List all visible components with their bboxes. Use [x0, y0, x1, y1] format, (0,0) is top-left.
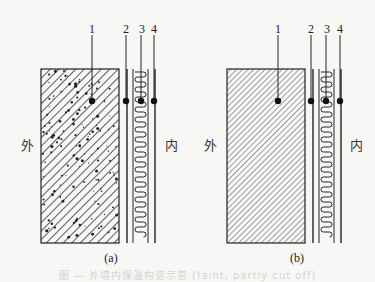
aggregate-speck	[96, 88, 98, 90]
aggregate-speck	[63, 70, 65, 72]
aggregate-speck	[76, 157, 79, 160]
aggregate-speck	[59, 120, 62, 123]
aggregate-speck	[81, 124, 82, 125]
aggregate-speck	[74, 82, 77, 85]
aggregate-speck	[84, 153, 85, 154]
aggregate-speck	[108, 150, 110, 152]
aggregate-speck	[76, 112, 79, 115]
aggregate-speck	[45, 229, 48, 232]
panel-b-dot-3	[323, 98, 329, 104]
aggregate-speck	[52, 134, 55, 137]
panel-a-dot-1	[89, 98, 95, 104]
aggregate-speck	[74, 134, 76, 136]
aggregate-speck	[54, 226, 56, 228]
aggregate-speck	[79, 166, 80, 167]
aggregate-speck	[44, 161, 46, 163]
panel-b-outside-label: 外	[204, 138, 217, 153]
aggregate-speck	[116, 182, 117, 183]
panel-b-sublabel: (b)	[290, 251, 304, 265]
aggregate-speck	[48, 219, 50, 221]
aggregate-speck	[49, 122, 51, 124]
aggregate-speck	[88, 136, 89, 137]
panel-a-callout-4: 4	[151, 22, 157, 36]
aggregate-speck	[79, 79, 81, 81]
aggregate-speck	[91, 130, 94, 133]
aggregate-speck	[49, 106, 50, 107]
aggregate-speck	[96, 115, 99, 118]
aggregate-speck	[75, 220, 78, 223]
aggregate-speck	[68, 83, 71, 86]
aggregate-speck	[60, 91, 62, 93]
aggregate-speck	[63, 130, 65, 132]
aggregate-speck	[72, 123, 75, 126]
aggregate-speck	[60, 185, 61, 186]
aggregate-speck	[73, 222, 75, 224]
aggregate-speck	[109, 88, 111, 90]
aggregate-speck	[46, 133, 48, 135]
aggregate-speck	[48, 98, 50, 100]
aggregate-speck	[62, 200, 65, 203]
aggregate-speck	[104, 214, 105, 215]
panel-a-sublabel: (a)	[104, 251, 117, 265]
aggregate-speck	[113, 172, 114, 173]
aggregate-speck	[60, 79, 62, 81]
aggregate-speck	[76, 145, 78, 147]
panel-b-callout-3: 3	[324, 22, 330, 36]
aggregate-speck	[76, 97, 78, 99]
aggregate-speck	[65, 175, 66, 176]
aggregate-speck	[73, 154, 76, 157]
panel-b-wall-layer	[227, 69, 305, 243]
aggregate-speck	[51, 223, 53, 225]
aggregate-speck	[81, 159, 84, 162]
aggregate-speck	[43, 176, 44, 177]
aggregate-speck	[50, 145, 53, 148]
panel-b-callout-2: 2	[308, 22, 314, 36]
aggregate-speck	[78, 109, 80, 111]
panel-a-wall-layer	[41, 69, 119, 243]
aggregate-speck	[98, 81, 100, 83]
aggregate-speck	[113, 125, 115, 127]
aggregate-speck	[113, 227, 116, 230]
aggregate-speck	[79, 142, 81, 144]
aggregate-speck	[71, 101, 73, 103]
aggregate-speck	[53, 99, 54, 100]
aggregate-speck	[44, 125, 46, 127]
aggregate-speck	[99, 130, 101, 132]
aggregate-speck	[48, 74, 50, 76]
aggregate-speck	[64, 75, 66, 77]
aggregate-speck	[109, 160, 111, 162]
aggregate-speck	[95, 169, 98, 172]
aggregate-speck	[65, 111, 67, 113]
aggregate-speck	[42, 153, 44, 155]
aggregate-speck	[104, 99, 105, 100]
aggregate-speck	[72, 186, 74, 188]
aggregate-speck	[53, 95, 55, 97]
aggregate-speck	[72, 118, 75, 121]
aggregate-speck	[60, 138, 62, 140]
aggregate-speck	[112, 206, 114, 208]
aggregate-speck	[106, 145, 107, 146]
panel-b-inside-label: 内	[350, 138, 363, 153]
panel-b-dot-1	[275, 98, 281, 104]
aggregate-speck	[79, 224, 82, 227]
aggregate-speck	[115, 146, 117, 148]
panel-a-inside-label: 内	[165, 138, 178, 153]
aggregate-speck	[49, 130, 50, 131]
aggregate-speck	[89, 133, 91, 135]
panel-a-dot-4	[151, 98, 157, 104]
aggregate-speck	[108, 231, 110, 233]
aggregate-speck	[43, 204, 45, 206]
aggregate-speck	[93, 191, 94, 192]
aggregate-speck	[115, 214, 118, 217]
aggregate-speck	[95, 179, 97, 181]
aggregate-speck	[46, 114, 48, 116]
panel-a-callout-1: 1	[89, 22, 95, 36]
aggregate-speck	[78, 81, 80, 83]
aggregate-speck	[67, 75, 68, 76]
aggregate-speck	[96, 125, 97, 126]
aggregate-speck	[91, 233, 94, 236]
aggregate-speck	[115, 178, 118, 181]
aggregate-speck	[88, 85, 90, 87]
aggregate-speck	[83, 127, 84, 128]
